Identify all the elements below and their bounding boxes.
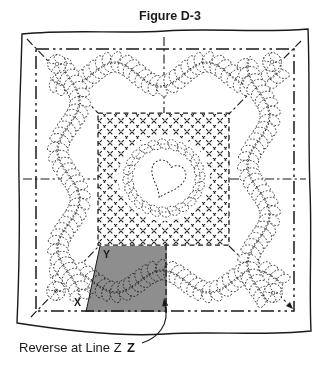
label-y: Y <box>103 248 110 260</box>
figure-title: Figure D-3 <box>139 9 201 23</box>
reverse-note: Reverse at Line Z <box>19 340 122 355</box>
figure-page: Figure D-3 <box>0 0 331 375</box>
label-z: Z <box>127 340 135 355</box>
quilt-pattern-diagram: Figure D-3 <box>0 0 331 375</box>
label-x: X <box>74 296 81 308</box>
diagonal-arrowhead <box>286 302 293 309</box>
